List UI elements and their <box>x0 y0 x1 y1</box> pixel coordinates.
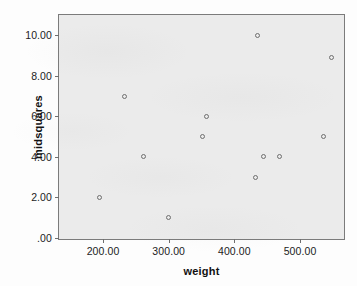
data-point <box>122 94 127 99</box>
data-point <box>204 114 209 119</box>
y-axis-tick-mark <box>55 238 59 239</box>
y-axis-tick-mark <box>55 35 59 36</box>
y-axis-tick-mark <box>55 157 59 158</box>
plot-area: .002.004.006.008.0010.00200.00300.00400.… <box>59 15 344 239</box>
x-axis-tick-mark <box>103 239 104 243</box>
data-point <box>261 154 266 159</box>
data-point <box>97 195 102 200</box>
x-axis-tick-label: 200.00 <box>87 245 120 257</box>
y-axis-title: midsquares <box>32 95 44 159</box>
y-axis-tick-mark <box>55 76 59 77</box>
x-axis-tick-label: 400.00 <box>218 245 251 257</box>
data-point <box>321 134 326 139</box>
x-axis-title: weight <box>58 265 345 277</box>
x-axis-tick-mark <box>300 239 301 243</box>
x-axis-tick-mark <box>234 239 235 243</box>
plot-frame: .002.004.006.008.0010.00200.00300.00400.… <box>58 14 345 240</box>
data-point <box>255 33 260 38</box>
x-axis-tick-label: 300.00 <box>152 245 185 257</box>
y-axis-tick-label: 8.00 <box>31 70 52 82</box>
x-axis-tick-mark <box>169 239 170 243</box>
y-axis-tick-label: 2.00 <box>31 191 52 203</box>
data-point <box>329 55 334 60</box>
y-axis-tick-mark <box>55 197 59 198</box>
data-point <box>166 215 171 220</box>
data-point <box>253 175 258 180</box>
y-axis-tick-mark <box>55 116 59 117</box>
data-point <box>141 154 146 159</box>
y-axis-tick-label: 10.00 <box>25 29 52 41</box>
data-point <box>277 154 282 159</box>
data-point <box>200 134 205 139</box>
y-axis-tick-label: .00 <box>37 232 52 244</box>
scatterplot-figure: .002.004.006.008.0010.00200.00300.00400.… <box>0 0 357 286</box>
x-axis-tick-label: 500.00 <box>284 245 317 257</box>
